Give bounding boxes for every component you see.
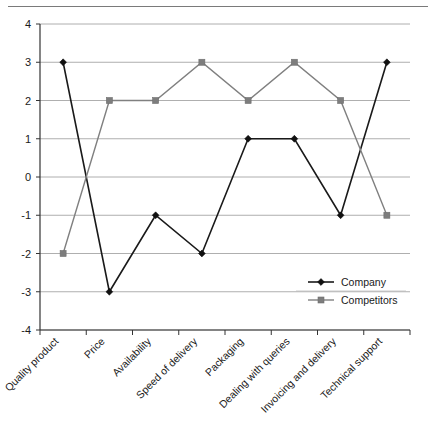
- y-tick-label: 0: [25, 171, 31, 183]
- x-category-label: Packaging: [202, 335, 245, 378]
- data-point-marker-company: [60, 59, 67, 66]
- data-point-marker-competitors: [199, 59, 205, 65]
- x-tick-marks-group: [40, 330, 410, 335]
- legend-marker-competitors: [318, 297, 324, 303]
- y-axis-tick-labels: 43210-1-2-3-4: [21, 18, 31, 336]
- data-point-marker-company: [383, 59, 390, 66]
- data-point-marker-competitors: [153, 98, 159, 104]
- x-category-label: Invoicing and delivery: [258, 334, 338, 414]
- data-point-marker-competitors: [245, 98, 251, 104]
- legend-label: Competitors: [341, 294, 398, 306]
- chart-container: 43210-1-2-3-4 Quality productPriceAvaila…: [0, 0, 436, 424]
- y-tick-label: 1: [25, 133, 31, 145]
- data-point-marker-company: [106, 288, 113, 295]
- data-point-marker-competitors: [338, 98, 344, 104]
- legend-marker-company: [318, 279, 325, 286]
- data-point-marker-competitors: [384, 212, 390, 218]
- y-tick-label: 3: [25, 56, 31, 68]
- data-point-marker-competitors: [60, 251, 66, 257]
- x-category-label: Availability: [110, 334, 154, 378]
- y-tick-label: -2: [21, 248, 31, 260]
- data-point-marker-company: [245, 135, 252, 142]
- y-tick-label: -1: [21, 209, 31, 221]
- y-tick-label: -4: [21, 324, 31, 336]
- x-category-label: Quality product: [2, 335, 60, 393]
- x-category-label: Price: [81, 335, 107, 361]
- y-tick-label: -3: [21, 286, 31, 298]
- data-point-marker-company: [337, 212, 344, 219]
- data-point-marker-competitors: [106, 98, 112, 104]
- y-tick-label: 4: [25, 18, 31, 30]
- data-point-marker-company: [291, 135, 298, 142]
- series-line-competitors: [63, 62, 387, 253]
- y-tick-label: 2: [25, 95, 31, 107]
- data-point-marker-competitors: [291, 59, 297, 65]
- chart-legend: CompanyCompetitors: [296, 276, 406, 306]
- line-chart-svg: 43210-1-2-3-4 Quality productPriceAvaila…: [0, 0, 436, 424]
- legend-label: Company: [341, 276, 387, 288]
- x-axis-category-labels: Quality productPriceAvailabilitySpeed of…: [2, 334, 384, 414]
